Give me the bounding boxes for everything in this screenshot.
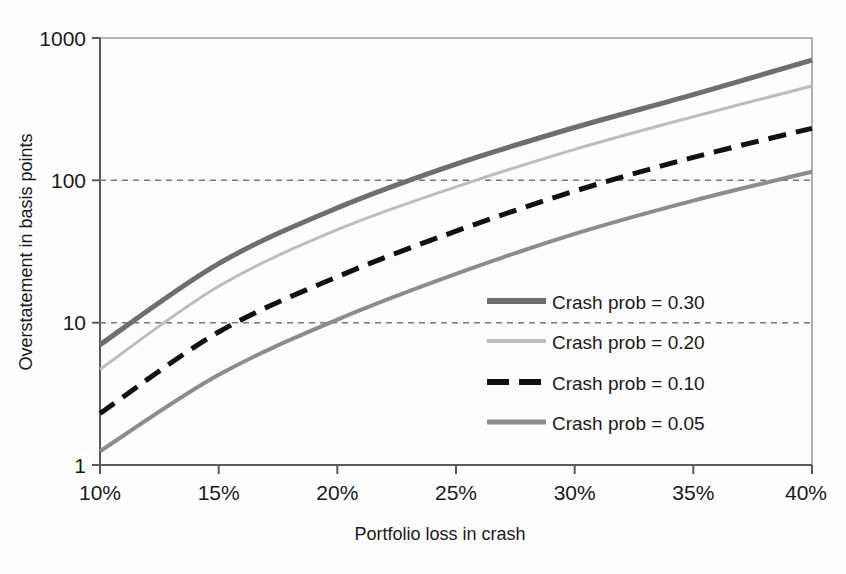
x-tick-label-30: 30%	[554, 481, 596, 504]
y-tick-label-100: 100	[51, 169, 86, 192]
x-tick-label-15: 15%	[198, 481, 240, 504]
chart-figure: 1000 100 10 1 10% 15% 20% 25% 30% 35% 40…	[0, 0, 846, 574]
y-tick-label-10: 10	[63, 311, 86, 334]
y-tick-label-1000: 1000	[39, 27, 86, 50]
x-tick-label-25: 25%	[435, 481, 477, 504]
legend-label-010: Crash prob = 0.10	[552, 373, 705, 394]
x-tick-label-10: 10%	[79, 481, 121, 504]
y-axis-title: Overstatement in basis points	[16, 133, 36, 370]
y-tick-label-1: 1	[74, 454, 86, 477]
legend-label-005: Crash prob = 0.05	[552, 413, 705, 434]
x-tick-label-40: 40%	[785, 481, 827, 504]
legend-label-020: Crash prob = 0.20	[552, 332, 705, 353]
x-axis-title: Portfolio loss in crash	[354, 524, 525, 544]
line-chart-svg: 1000 100 10 1 10% 15% 20% 25% 30% 35% 40…	[0, 0, 846, 574]
x-tick-label-20: 20%	[316, 481, 358, 504]
legend-label-030: Crash prob = 0.30	[552, 292, 705, 313]
x-tick-label-35: 35%	[672, 481, 714, 504]
